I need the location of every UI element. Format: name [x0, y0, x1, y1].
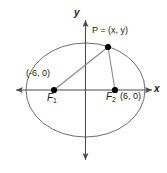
y-axis-label: y: [74, 8, 80, 18]
focus-2-coordinate-label: (6, 0): [120, 92, 141, 101]
ellipse-diagram: y x P = (x, y) (-6, 0) F1 F2 (6, 0): [0, 0, 167, 173]
focus-2-subscript: 2: [112, 96, 116, 103]
focus-2-label: F2: [106, 92, 116, 102]
segment-f1-to-p: [54, 47, 108, 90]
focus-1-coordinate-label: (-6, 0): [26, 69, 50, 78]
focus-1-label: F1: [47, 93, 57, 103]
diagram-canvas: [0, 0, 167, 173]
focus-1-subscript: 1: [53, 97, 57, 104]
point-p-label: P = (x, y): [92, 26, 128, 35]
x-axis-label: x: [154, 84, 160, 94]
point-p-marker: [105, 44, 111, 50]
segment-f2-to-p: [108, 47, 115, 90]
